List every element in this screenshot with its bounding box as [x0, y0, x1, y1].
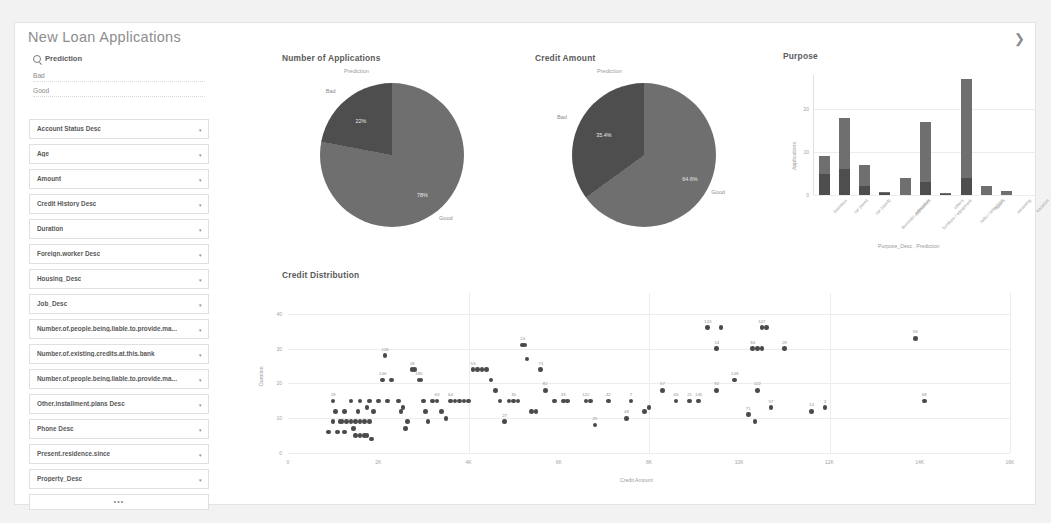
filter-option-good[interactable]: Good [33, 84, 205, 97]
scatter-point[interactable] [593, 423, 598, 428]
scatter-point[interactable] [426, 419, 431, 424]
field-present-residence-since[interactable]: Present.residence.since ▾ [29, 444, 209, 464]
scatter-point[interactable] [369, 437, 374, 442]
scatter-point[interactable] [493, 388, 498, 393]
scatter-point[interactable] [714, 388, 719, 393]
scatter-point[interactable] [809, 409, 814, 414]
scatter-point[interactable] [380, 378, 385, 383]
scatter-point[interactable] [405, 419, 410, 424]
scatter-point[interactable] [714, 346, 719, 351]
bar-column[interactable] [879, 75, 890, 195]
scatter-point[interactable] [755, 346, 760, 351]
field-phone-desc[interactable]: Phone Desc ▾ [29, 419, 209, 439]
scatter-point[interactable] [755, 388, 760, 393]
scatter-point[interactable] [565, 399, 570, 404]
chevron-down-icon[interactable]: ▾ [199, 352, 202, 358]
scatter-point[interactable] [516, 399, 521, 404]
scatter-point[interactable] [326, 430, 331, 435]
field-foreign-worker-desc[interactable]: Foreign.worker Desc ▾ [29, 244, 209, 264]
scatter-point[interactable] [365, 405, 370, 410]
scatter-point[interactable] [335, 430, 340, 435]
scatter-point[interactable] [385, 399, 390, 404]
scatter-point[interactable] [331, 419, 336, 424]
scatter-point[interactable] [823, 405, 828, 410]
scatter-point[interactable] [552, 399, 557, 404]
chevron-down-icon[interactable]: ▾ [199, 377, 202, 383]
scatter-point[interactable] [333, 409, 338, 414]
scatter-point[interactable] [342, 409, 347, 414]
field-number-of-existing-credits[interactable]: Number.of.existing.credits.at.this.bank … [29, 344, 209, 364]
scatter-point[interactable] [439, 409, 444, 414]
chevron-down-icon[interactable]: ▾ [199, 452, 202, 458]
chevron-down-icon[interactable]: ▾ [199, 202, 202, 208]
bar-column[interactable] [900, 75, 911, 195]
scatter-point[interactable] [764, 325, 769, 330]
scatter-point[interactable] [367, 419, 372, 424]
chevron-down-icon[interactable]: ▾ [199, 227, 202, 233]
field-credit-history-desc[interactable]: Credit History Desc ▾ [29, 194, 209, 214]
scatter-point[interactable] [376, 399, 381, 404]
scatter-point[interactable] [403, 426, 408, 431]
scatter-point[interactable] [543, 388, 548, 393]
bar-column[interactable] [961, 75, 972, 195]
scatter-point[interactable] [430, 399, 435, 404]
scatter-point[interactable] [687, 399, 692, 404]
field-other-installment-plans-desc[interactable]: Other.installment.plans Desc ▾ [29, 394, 209, 414]
chevron-down-icon[interactable]: ▾ [199, 252, 202, 258]
scatter-point[interactable] [746, 412, 751, 417]
chevron-down-icon[interactable]: ▾ [199, 177, 202, 183]
bar-column[interactable] [920, 75, 931, 195]
scatter-point[interactable] [444, 416, 449, 421]
bar-column[interactable] [819, 75, 830, 195]
field-number-of-people-liable-1[interactable]: Number.of.people.being.liable.to.provide… [29, 319, 209, 339]
field-job-desc[interactable]: Job_Desc ▾ [29, 294, 209, 314]
field-housing-desc[interactable]: Housing_Desc ▾ [29, 269, 209, 289]
chevron-down-icon[interactable]: ▾ [199, 427, 202, 433]
field-duration[interactable]: Duration ▾ [29, 219, 209, 239]
scatter-point[interactable] [538, 367, 543, 372]
bar-column[interactable] [1001, 75, 1012, 195]
scatter-point[interactable] [371, 409, 376, 414]
scatter-point[interactable] [588, 399, 593, 404]
scatter-point[interactable] [421, 399, 426, 404]
scatter-point[interactable] [523, 343, 528, 348]
scatter-point[interactable] [606, 399, 611, 404]
bar-column[interactable] [1021, 75, 1032, 195]
chevron-down-icon[interactable]: ▾ [199, 402, 202, 408]
applications-pie-chart[interactable]: Bad Good 22% 78% [320, 83, 464, 227]
scatter-point[interactable] [674, 399, 679, 404]
scatter-point[interactable] [922, 399, 927, 404]
field-amount[interactable]: Amount ▾ [29, 169, 209, 189]
scatter-point[interactable] [383, 353, 388, 358]
bar-column[interactable] [981, 75, 992, 195]
scatter-point[interactable] [423, 409, 428, 414]
scatter-point[interactable] [705, 325, 710, 330]
scatter-point[interactable] [732, 378, 737, 383]
scatter-point[interactable] [660, 388, 665, 393]
scatter-point[interactable] [525, 357, 530, 362]
scatter-point[interactable] [466, 399, 471, 404]
scatter-point[interactable] [913, 336, 918, 341]
field-property-desc[interactable]: Property_Desc ▾ [29, 469, 209, 489]
scatter-point[interactable] [389, 378, 394, 383]
scatter-point[interactable] [760, 346, 765, 351]
chevron-down-icon[interactable]: ▾ [199, 327, 202, 333]
scatter-point[interactable] [629, 399, 634, 404]
purpose-bar-chart[interactable]: Applications Purpose_Desc , Prediction 0… [783, 65, 1051, 255]
chevron-down-icon[interactable]: ▾ [199, 152, 202, 158]
scatter-point[interactable] [753, 419, 758, 424]
field-account-status-desc[interactable]: Account Status Desc ▾ [29, 119, 209, 139]
scatter-point[interactable] [396, 399, 401, 404]
scatter-point[interactable] [489, 378, 494, 383]
field-age[interactable]: Age ▾ [29, 144, 209, 164]
chevron-down-icon[interactable]: ▾ [199, 277, 202, 283]
scatter-point[interactable] [498, 399, 503, 404]
more-fields-button[interactable]: ••• [29, 494, 209, 510]
chevron-down-icon[interactable]: ▾ [199, 127, 202, 133]
bar-column[interactable] [839, 75, 850, 195]
scatter-point[interactable] [769, 405, 774, 410]
scatter-point[interactable] [342, 430, 347, 435]
scatter-point[interactable] [624, 416, 629, 421]
scatter-point[interactable] [367, 399, 372, 404]
scatter-point[interactable] [435, 399, 440, 404]
